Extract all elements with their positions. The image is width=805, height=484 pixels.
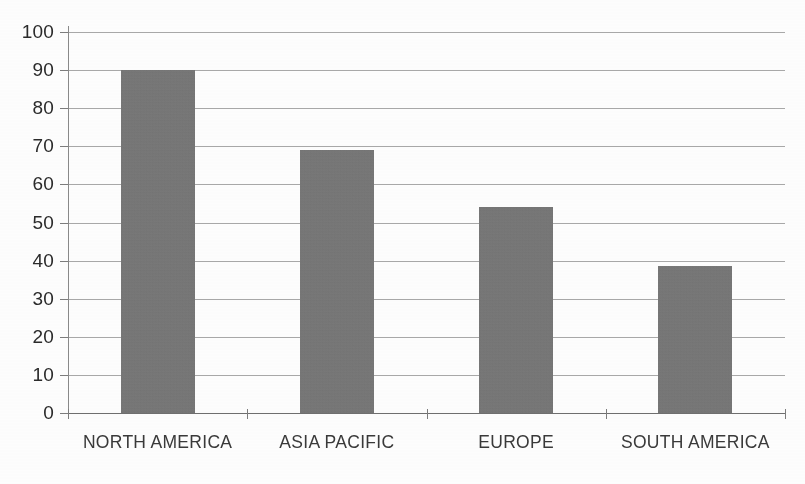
y-axis-label-30: 30 [0,288,54,310]
y-axis-label-100: 100 [0,21,54,43]
category-label-asia-pacific: ASIA PACIFIC [279,432,394,453]
bar-chart-figure: 0102030405060708090100 NORTH AMERICAASIA… [0,0,805,484]
category-label-europe: EUROPE [478,432,554,453]
bar-south-america [658,266,732,413]
y-axis-label-40: 40 [0,250,54,272]
y-axis-label-50: 50 [0,212,54,234]
plot-area [68,32,785,413]
bar-europe [479,207,553,413]
category-label-south-america: SOUTH AMERICA [621,432,770,453]
y-axis-label-60: 60 [0,173,54,195]
y-axis-label-20: 20 [0,326,54,348]
y-axis-label-90: 90 [0,59,54,81]
y-axis-label-80: 80 [0,97,54,119]
bar-asia-pacific [300,150,374,413]
y-axis-label-70: 70 [0,135,54,157]
x-tick-4 [785,409,786,419]
y-axis-label-10: 10 [0,364,54,386]
bar-north-america [121,70,195,413]
category-label-north-america: NORTH AMERICA [83,432,232,453]
y-axis-label-0: 0 [0,402,54,424]
